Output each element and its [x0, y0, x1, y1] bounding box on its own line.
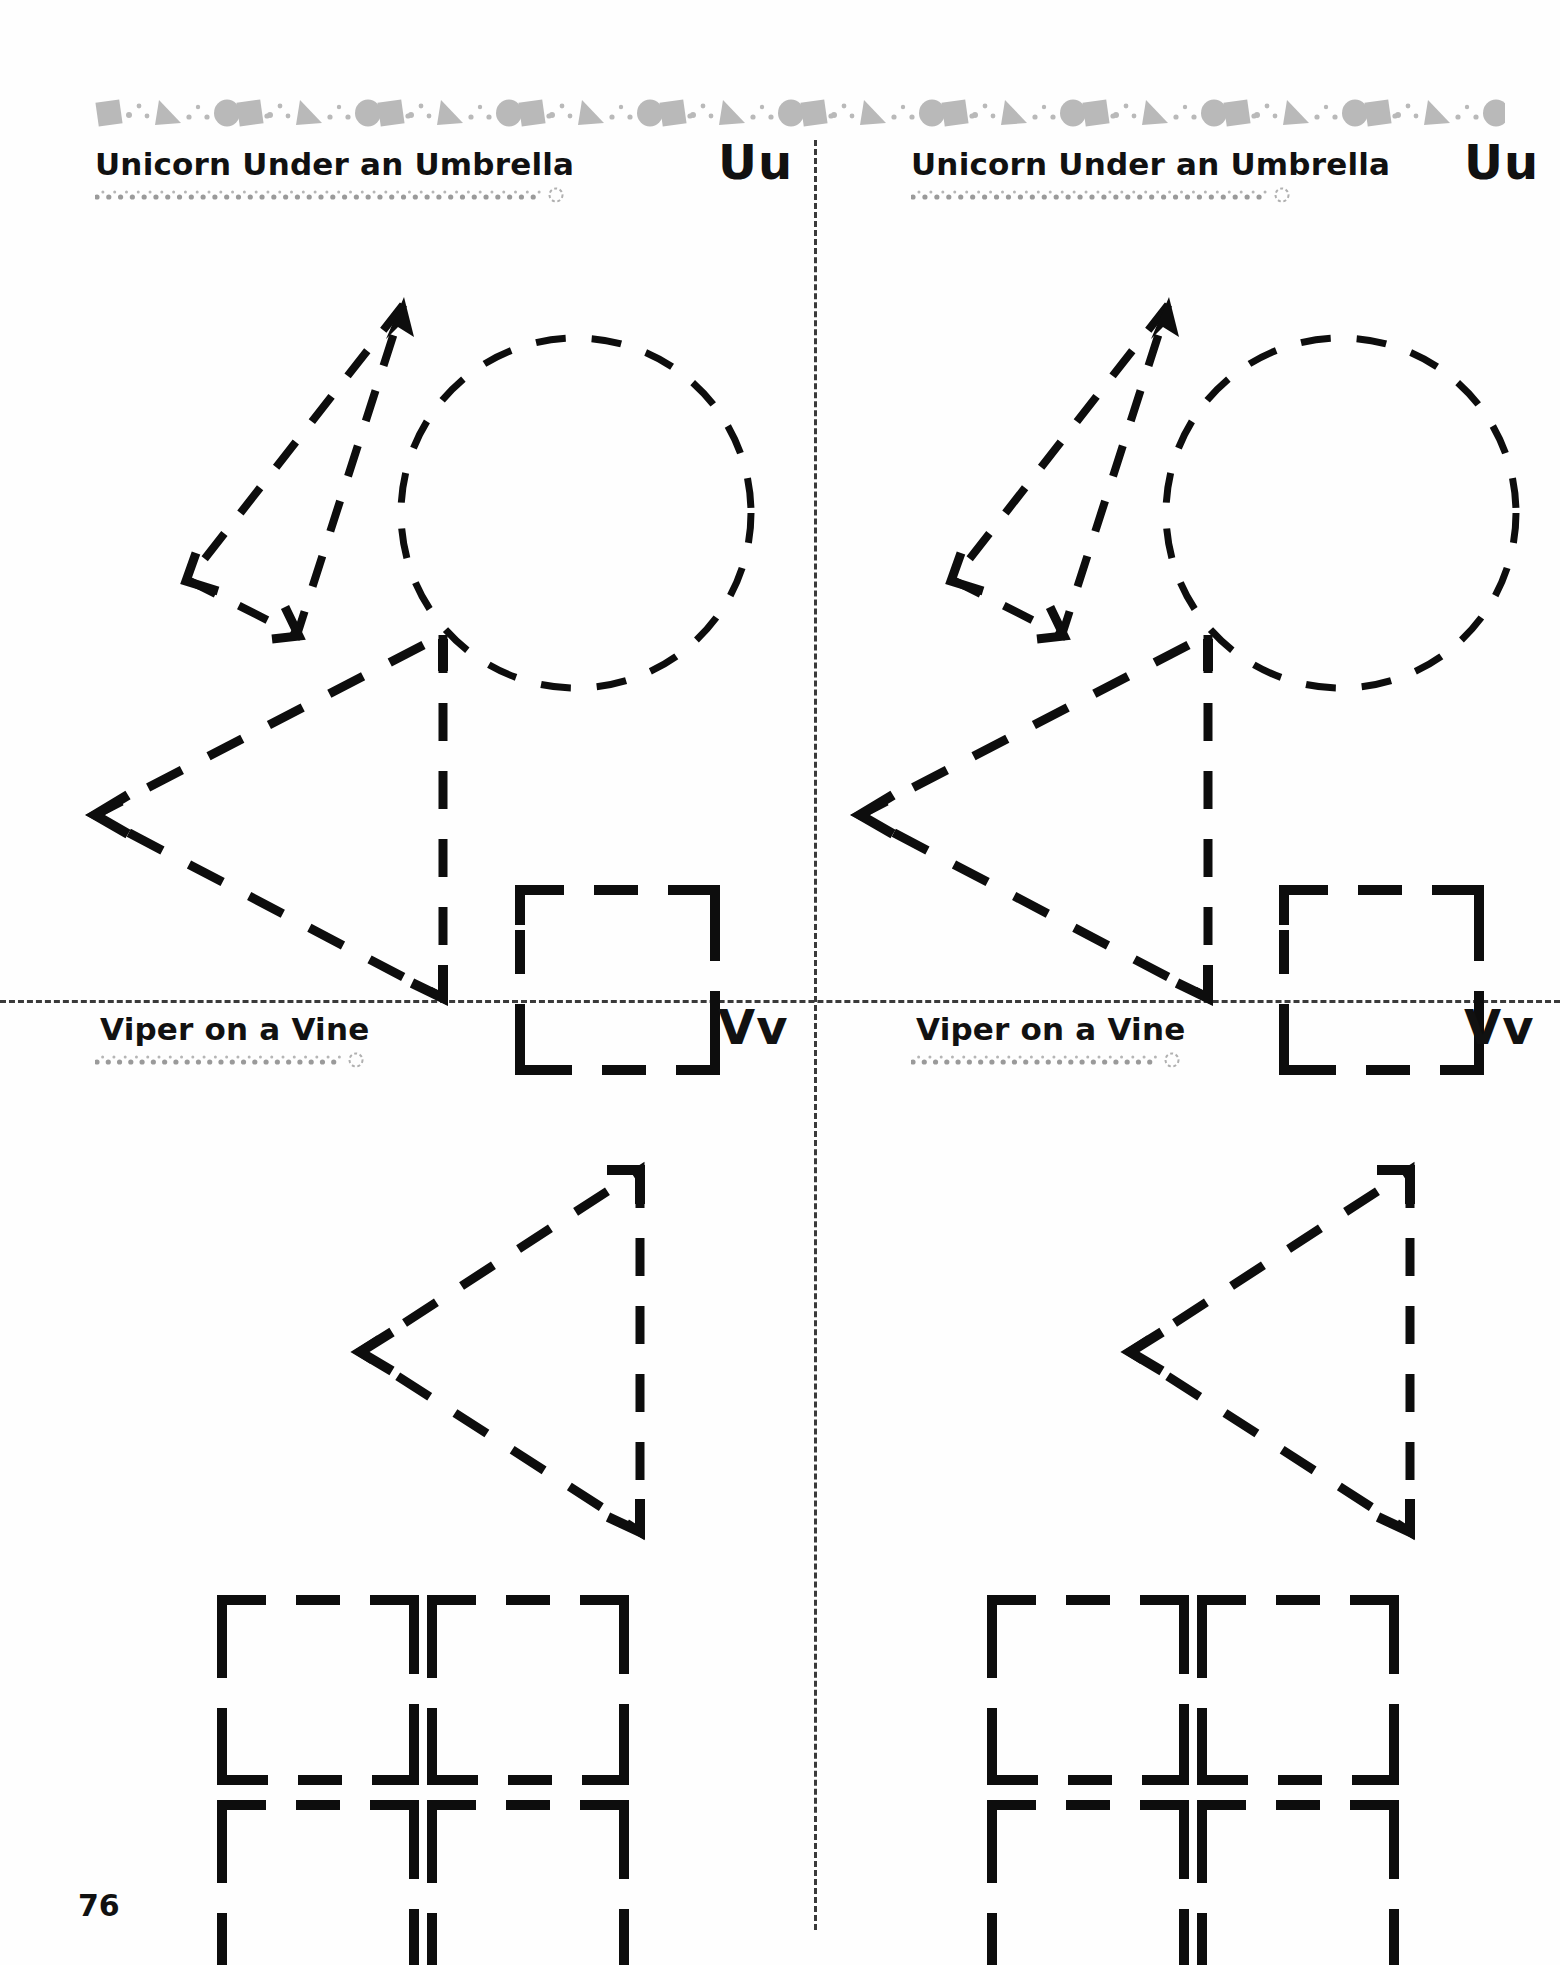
square-grid — [222, 1600, 624, 1965]
underline-dot-icon — [1052, 1056, 1055, 1059]
square-corner-br — [376, 1745, 414, 1780]
border-dot-icon — [327, 114, 332, 119]
underline-dot-icon — [295, 194, 300, 199]
border-dot-icon — [690, 112, 696, 118]
underline-dot-icon — [330, 194, 335, 199]
left-pointing-triangle — [360, 1170, 640, 1532]
underline-dot-icon — [1192, 191, 1195, 194]
square-corner-bl — [992, 1745, 1030, 1780]
triangle-corner-bottom — [1378, 1499, 1410, 1532]
underline-dot-icon — [982, 194, 987, 199]
underline-dot-icon — [361, 191, 364, 194]
underline-dot-icon — [158, 1056, 161, 1059]
underline-dot-icon — [946, 194, 951, 199]
border-dot-icon — [609, 114, 614, 119]
square-corner-br — [1146, 1745, 1184, 1780]
underline-dot-icon — [1091, 1059, 1096, 1064]
underline-dot-icon — [934, 194, 939, 199]
border-square-icon — [518, 99, 545, 126]
underline-dot-icon — [1132, 191, 1135, 194]
underline-dot-icon — [263, 1059, 268, 1064]
underline-dot-icon — [1042, 194, 1047, 199]
border-dot-icon — [1273, 114, 1278, 119]
border-dot-icon — [1032, 114, 1037, 119]
underline-dot-icon — [940, 1056, 943, 1059]
underline-dot-icon — [1131, 1056, 1134, 1059]
underline-dot-icon — [201, 194, 206, 199]
underline-dot-icon — [401, 194, 406, 199]
underline-dot-icon — [286, 1059, 291, 1064]
underline-dot-icon — [1149, 194, 1154, 199]
underline-dot-icon — [236, 194, 241, 199]
letter-label: Vv — [1464, 999, 1534, 1055]
underline-dot-icon — [1256, 194, 1261, 199]
dashed-square — [222, 1600, 414, 1780]
underline-dot-icon — [514, 191, 517, 194]
underline-dot-icon — [974, 1056, 977, 1059]
underline-dot-icon — [502, 191, 505, 194]
square-corner-tl — [222, 1600, 260, 1635]
square-corner-br — [376, 1950, 414, 1965]
underline-dot-icon — [1006, 194, 1011, 199]
border-dot-icon — [983, 104, 988, 109]
underline-dot-icon — [224, 194, 229, 199]
underline-dot-icon — [149, 191, 152, 194]
border-dot-icon — [991, 114, 996, 119]
underline-dot-icon — [967, 1059, 972, 1064]
underline-dot-icon — [1068, 1059, 1073, 1064]
triangle-corner-top — [1377, 1170, 1410, 1204]
underline-dot-icon — [314, 191, 317, 194]
triangle-corner-bottom — [412, 965, 443, 998]
border-triangle-icon — [1001, 100, 1027, 125]
underline-dot-icon — [283, 194, 288, 199]
border-dot-icon — [419, 104, 424, 109]
underline-dot-icon — [252, 1059, 257, 1064]
underline-dot-icon — [425, 194, 430, 199]
underline-dot-icon — [483, 194, 488, 199]
underline-dot-icon — [241, 1059, 246, 1064]
border-dot-icon — [204, 114, 209, 119]
underline-dot-icon — [1113, 194, 1118, 199]
dashed-square — [1202, 1600, 1394, 1780]
border-dot-icon — [627, 114, 632, 119]
underline-dot-icon — [124, 1056, 127, 1059]
underline-dot-icon — [1120, 1056, 1123, 1059]
underline-dot-icon — [917, 1056, 920, 1059]
square-corner-br — [1356, 1950, 1394, 1965]
page-title: Unicorn Under an Umbrella — [911, 146, 1390, 182]
border-dot-icon — [901, 105, 905, 109]
square-corner-br — [1146, 1950, 1184, 1965]
border-circle-icon — [919, 100, 945, 127]
border-triangle-icon — [1142, 100, 1168, 125]
square-corner-tr — [376, 1600, 414, 1635]
underline-dot-icon — [1180, 191, 1183, 194]
underline-dot-icon — [189, 194, 194, 199]
underline-dot-icon — [1154, 1056, 1157, 1059]
underline-dot-icon — [989, 191, 992, 194]
underline-dot-icon — [1156, 191, 1159, 194]
underline-dot-icon — [282, 1056, 285, 1059]
border-circle-icon — [1483, 100, 1505, 127]
underline-dot-icon — [479, 191, 482, 194]
underline-dot-icon — [1185, 194, 1190, 199]
underline-dot-icon — [1264, 191, 1267, 194]
border-square-icon — [800, 99, 827, 126]
underline-dot-icon — [318, 194, 323, 199]
underline-dot-icon — [275, 1059, 280, 1064]
underline-dot-icon — [1108, 191, 1111, 194]
border-dot-icon — [701, 104, 706, 109]
underline-dot-icon — [519, 194, 524, 199]
underline-dot-icon — [342, 194, 347, 199]
border-triangle-icon — [437, 100, 463, 125]
underline-dot-icon — [985, 1056, 988, 1059]
square-corner-bl — [992, 1950, 1030, 1965]
square-corner-tl — [992, 1600, 1030, 1635]
underline-dot-icon — [214, 1056, 217, 1059]
border-triangle-icon — [296, 100, 322, 125]
border-circle-icon — [1342, 100, 1368, 127]
underline-dot-icon — [203, 1056, 206, 1059]
underline-dot-icon — [526, 191, 529, 194]
square-corner-br — [586, 1745, 624, 1780]
border-dot-icon — [760, 105, 764, 109]
square-corner-tl — [1202, 1600, 1240, 1635]
